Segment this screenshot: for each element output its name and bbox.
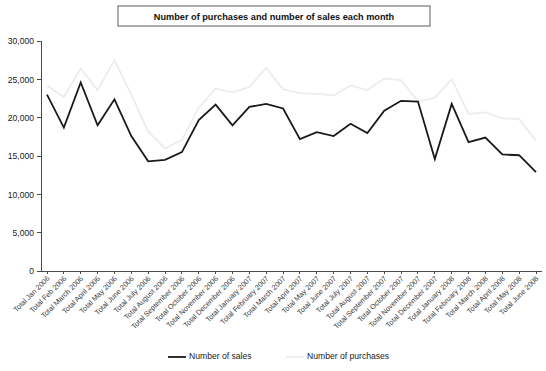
y-axis-tick-label: 30,000 — [8, 36, 35, 46]
legend-label-0: Number of sales — [189, 351, 252, 361]
y-axis: 05,00010,00015,00020,00025,00030,000 — [8, 36, 41, 276]
chart-container: Number of purchases and number of sales … — [0, 0, 546, 371]
y-axis-tick-label: 5,000 — [12, 228, 34, 238]
y-axis-tick-label: 25,000 — [8, 75, 35, 85]
purchases-sales-line-chart: Number of purchases and number of sales … — [0, 0, 546, 371]
chart-legend: Number of salesNumber of purchases — [168, 351, 389, 361]
chart-series-group — [47, 60, 536, 172]
y-axis-tick-label: 15,000 — [8, 151, 35, 161]
legend-label-1: Number of purchases — [307, 351, 389, 361]
y-axis-tick-label: 10,000 — [8, 190, 35, 200]
y-axis-tick-label: 20,000 — [8, 113, 35, 123]
series-line-number-of-purchases — [47, 60, 536, 148]
y-axis-tick-label: 0 — [29, 266, 34, 276]
x-axis: Total Jan 2006Total Feb 2006Total March … — [11, 271, 542, 331]
chart-title: Number of purchases and number of sales … — [118, 6, 430, 26]
series-line-number-of-sales — [47, 82, 536, 172]
chart-title-label: Number of purchases and number of sales … — [154, 12, 395, 22]
